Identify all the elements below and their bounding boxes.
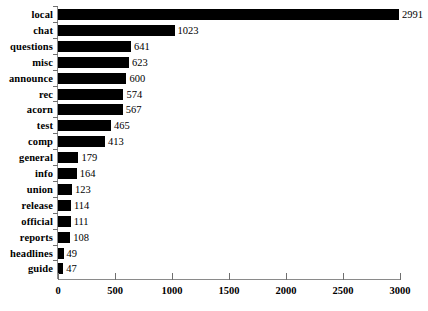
y-axis-tick: [53, 149, 58, 150]
bar-row: info164: [0, 168, 428, 179]
category-label: release: [0, 200, 53, 211]
bar-value-label: 567: [126, 104, 142, 115]
category-label: general: [0, 152, 53, 163]
bar-row: local2991: [0, 9, 428, 20]
y-axis-tick: [53, 229, 58, 230]
bar: [58, 216, 71, 227]
y-axis-tick: [53, 213, 58, 214]
category-label: misc: [0, 57, 53, 68]
bar: [58, 120, 111, 131]
bar-row: questions641: [0, 41, 428, 52]
bar: [58, 9, 399, 20]
category-label: official: [0, 216, 53, 227]
bar: [58, 184, 72, 195]
bar-value-label: 1023: [178, 25, 199, 36]
bar-row: acorn567: [0, 104, 428, 115]
bar: [58, 89, 123, 100]
category-label: info: [0, 168, 53, 179]
bar-value-label: 641: [134, 41, 150, 52]
category-label: local: [0, 9, 53, 20]
x-axis-tick: [172, 273, 173, 280]
bar-value-label: 465: [114, 120, 130, 131]
bar-value-label: 574: [126, 89, 142, 100]
bar-value-label: 164: [80, 168, 96, 179]
bar-value-label: 123: [75, 184, 91, 195]
category-label: announce: [0, 73, 53, 84]
bar-value-label: 49: [67, 248, 78, 259]
x-axis-tick: [400, 273, 401, 280]
x-axis-tick-label: 1000: [162, 285, 183, 296]
y-axis-tick: [53, 86, 58, 87]
y-axis-tick: [53, 197, 58, 198]
y-axis-tick: [53, 54, 58, 55]
y-axis-tick: [53, 245, 58, 246]
x-axis-tick: [115, 273, 116, 280]
bar-value-label: 47: [66, 263, 77, 274]
bar-row: rec574: [0, 89, 428, 100]
y-axis-tick: [53, 165, 58, 166]
x-axis-tick: [58, 273, 59, 280]
bar: [58, 41, 131, 52]
bar: [58, 104, 123, 115]
category-label: test: [0, 120, 53, 131]
category-label: acorn: [0, 104, 53, 115]
category-label: questions: [0, 41, 53, 52]
y-axis-tick: [53, 133, 58, 134]
x-axis-tick-label: 1500: [219, 285, 240, 296]
category-label: chat: [0, 25, 53, 36]
x-axis-tick: [229, 273, 230, 280]
bar-value-label: 413: [108, 136, 124, 147]
bar-row: union123: [0, 184, 428, 195]
y-axis-tick: [53, 117, 58, 118]
bar-row: misc623: [0, 57, 428, 68]
category-label: guide: [0, 263, 53, 274]
y-axis-tick: [53, 6, 58, 7]
bar-row: guide47: [0, 263, 428, 274]
bar: [58, 136, 105, 147]
bar-row: official111: [0, 216, 428, 227]
x-axis-tick-label: 0: [55, 285, 60, 296]
x-axis-tick-label: 2500: [333, 285, 354, 296]
bar: [58, 200, 71, 211]
bar: [58, 168, 77, 179]
bar-row: release114: [0, 200, 428, 211]
bar-value-label: 111: [74, 216, 89, 227]
x-axis-tick: [343, 273, 344, 280]
y-axis-tick: [53, 260, 58, 261]
category-label: reports: [0, 232, 53, 243]
x-axis-tick-label: 3000: [390, 285, 411, 296]
y-axis-tick: [53, 181, 58, 182]
bar-row: chat1023: [0, 25, 428, 36]
bar-row: general179: [0, 152, 428, 163]
y-axis-tick: [53, 38, 58, 39]
category-label: comp: [0, 136, 53, 147]
y-axis-tick: [53, 22, 58, 23]
category-label: union: [0, 184, 53, 195]
bar-row: headlines49: [0, 248, 428, 259]
bar: [58, 232, 70, 243]
bar: [58, 248, 64, 259]
bar-value-label: 108: [73, 232, 89, 243]
bar-chart: local2991chat1023questions641misc623anno…: [0, 0, 428, 311]
bar-value-label: 114: [74, 200, 89, 211]
bar-value-label: 623: [132, 57, 148, 68]
bar: [58, 57, 129, 68]
category-label: headlines: [0, 248, 53, 259]
y-axis-tick: [53, 101, 58, 102]
bar: [58, 25, 175, 36]
x-axis-tick: [286, 273, 287, 280]
bar: [58, 152, 78, 163]
x-axis-tick-label: 500: [107, 285, 123, 296]
category-label: rec: [0, 89, 53, 100]
bar-row: reports108: [0, 232, 428, 243]
bar-row: comp413: [0, 136, 428, 147]
bar-value-label: 2991: [402, 9, 423, 20]
bar: [58, 73, 126, 84]
bar-row: test465: [0, 120, 428, 131]
bar-value-label: 600: [129, 73, 145, 84]
y-axis-tick: [53, 70, 58, 71]
x-axis-tick-label: 2000: [276, 285, 297, 296]
bar-row: announce600: [0, 73, 428, 84]
bar-value-label: 179: [81, 152, 97, 163]
